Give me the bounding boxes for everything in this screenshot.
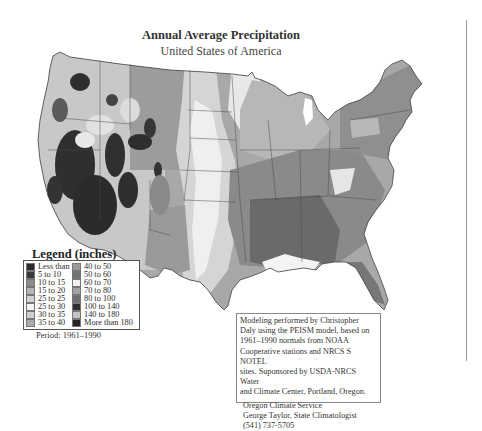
legend-swatch	[72, 303, 81, 311]
legend-swatch	[26, 263, 35, 271]
legend-swatch	[26, 279, 35, 287]
info-line: sites. Suponsored by USDA-NRCS Water	[240, 367, 377, 387]
legend: Less than 5 5 to 10 10 to 15 15 to 20 25…	[23, 260, 140, 330]
legend-swatch	[26, 287, 35, 295]
legend-label: More than 180	[84, 319, 133, 327]
info-line: and Climate Center, Portland, Oregon.	[240, 387, 377, 397]
legend-swatch	[72, 319, 81, 327]
legend-swatch	[72, 271, 81, 279]
credit-line: Oregon Climate Service	[243, 401, 377, 411]
legend-swatch	[26, 271, 35, 279]
legend-swatch	[26, 295, 35, 303]
model-credits-box: Modeling performed by Christopher Daly u…	[236, 313, 381, 403]
legend-swatch	[26, 303, 35, 311]
info-line: Cooperative stations and NRCS S NOTEL	[240, 347, 377, 367]
legend-swatch	[72, 263, 81, 271]
info-line: Daly using the PEISM model, based on	[240, 326, 377, 336]
info-line: 1961–1990 normals from NOAA	[240, 336, 377, 346]
legend-column-2: 40 to 50 50 to 60 60 to 70 70 to 80 80 t…	[72, 263, 133, 327]
credit-phone: (541) 737-5705	[243, 421, 377, 431]
legend-period: Period: 1961–1990	[36, 330, 101, 340]
legend-item: 35 to 40	[26, 319, 76, 327]
legend-label: 35 to 40	[38, 319, 65, 327]
info-line: Modeling performed by Christopher	[240, 316, 377, 326]
legend-item: More than 180	[72, 319, 133, 327]
legend-swatch	[26, 319, 35, 327]
legend-swatch	[72, 311, 81, 319]
climate-service-credit: Oregon Climate Service George Taylor, St…	[240, 401, 377, 431]
legend-swatch	[72, 279, 81, 287]
credit-line: George Taylor, State Climatologist	[243, 411, 377, 421]
legend-swatch	[26, 311, 35, 319]
legend-column-1: Less than 5 5 to 10 10 to 15 15 to 20 25…	[26, 263, 76, 327]
legend-swatch	[72, 295, 81, 303]
legend-swatch	[72, 287, 81, 295]
